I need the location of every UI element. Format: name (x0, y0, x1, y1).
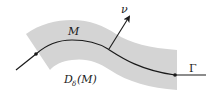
label-gamma: Γ (189, 62, 197, 75)
tubular-neighborhood-diagram: M ν Γ D δ (M) (0, 0, 217, 100)
label-neighborhood-subscript: δ (72, 80, 76, 88)
endpoint-left-dot (34, 52, 38, 56)
label-m: M (67, 25, 80, 38)
label-nu: ν (121, 3, 128, 16)
endpoint-right-dot (173, 73, 177, 77)
label-neighborhood: D δ (M) (63, 73, 97, 88)
neighborhood-band (26, 20, 177, 90)
label-neighborhood-arg: (M) (77, 73, 97, 86)
